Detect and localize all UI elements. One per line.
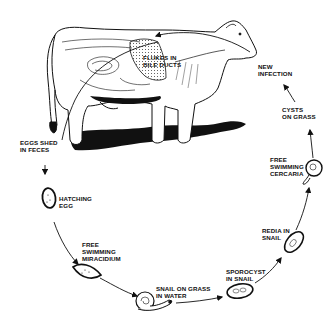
label-new-infection: NEW INFECTION (258, 64, 292, 78)
label-flukes-in-bile-ducts: FLUKES IN BILE DUCTS (143, 55, 181, 69)
cercaria-icon (303, 160, 322, 184)
life-cycle-diagram: FLUKES IN BILE DUCTS NEW INFECTION CYSTS… (0, 0, 336, 326)
label-redia-in-snail: REDIA IN SNAIL (262, 228, 290, 242)
label-free-swimming-miracidium: FREE SWIMMING MIRACIDIUM (82, 242, 121, 262)
label-eggs-shed-in-feces: EGGS SHED IN FECES (20, 140, 58, 154)
miracidium-icon (73, 264, 101, 278)
label-hatching-egg: HATCHING EGG (59, 196, 92, 210)
sporocyst-icon (226, 282, 254, 300)
label-sporocyst-in-snail: SPOROCYST IN SNAIL (226, 269, 266, 283)
hatching-egg-icon (41, 187, 57, 209)
label-cysts-on-grass: CYSTS ON GRASS (282, 107, 316, 121)
label-snail-on-grass-in-water: SNAIL ON GRASS IN WATER (156, 286, 211, 300)
label-free-swimming-cercaria: FREE SWIMMING CERCARIA (270, 157, 304, 177)
